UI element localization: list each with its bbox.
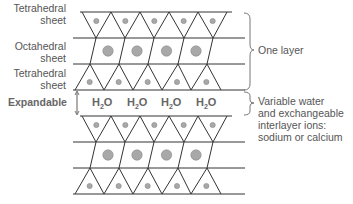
label-line: sheet: [0, 14, 66, 26]
h: H: [161, 96, 169, 108]
annotation-line: Variable water: [258, 95, 344, 107]
water-molecule: H2O: [196, 96, 216, 110]
annotation-line: interlayer ions:: [258, 119, 344, 131]
label-line: Tetrahedral: [0, 2, 66, 14]
label-expandable: Expandable: [8, 96, 67, 108]
h: H: [127, 96, 135, 108]
annotation-interlayer: Variable water and exchangeable interlay…: [258, 95, 344, 143]
label-tetrahedral-sheet-bottom: Tetrahedral sheet: [0, 67, 66, 91]
label-octahedral-sheet: Octahedral sheet: [0, 40, 66, 64]
annotation-line: sodium or calcium: [258, 131, 344, 143]
o: O: [139, 96, 148, 108]
label-line: Octahedral: [0, 40, 66, 52]
o: O: [208, 96, 217, 108]
label-line: sheet: [0, 52, 66, 64]
label-line: Tetrahedral: [0, 67, 66, 79]
h: H: [196, 96, 204, 108]
h: H: [92, 96, 100, 108]
water-molecule: H2O: [127, 96, 147, 110]
label-tetrahedral-sheet-top: Tetrahedral sheet: [0, 2, 66, 26]
water-molecule: H2O: [92, 96, 112, 110]
annotation-line: and exchangeable: [258, 107, 344, 119]
annotation-one-layer: One layer: [258, 44, 304, 56]
water-molecule: H2O: [161, 96, 181, 110]
label-line: sheet: [0, 79, 66, 91]
o: O: [104, 96, 113, 108]
o: O: [173, 96, 182, 108]
